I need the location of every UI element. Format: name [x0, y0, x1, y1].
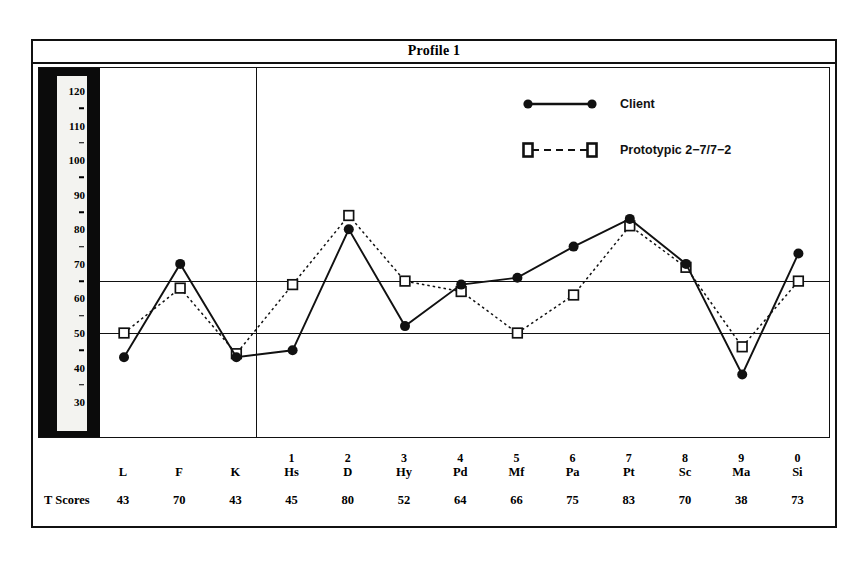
chart-title-band: Profile 1 [31, 39, 837, 64]
scale-abbr-si: Si [792, 465, 802, 479]
scale-column-hy: 3Hy [396, 452, 412, 479]
prototypic-point-Pa [569, 290, 579, 300]
chart-legend: Client Prototypic 2−7/7−2 [520, 93, 820, 185]
y-axis-minor-tick [79, 211, 84, 213]
client-point-L [119, 352, 129, 362]
scale-column-ma: 9Ma [732, 452, 750, 479]
tscore-ma: 38 [735, 493, 748, 508]
client-point-D [344, 224, 354, 234]
scale-abbr-mf: Mf [508, 465, 524, 479]
scale-number-ma: 9 [732, 452, 750, 465]
scale-abbr-k: K [231, 465, 241, 479]
y-axis-minor-tick [79, 246, 84, 248]
y-axis-tick-100: 100 [69, 155, 86, 166]
tscore-pt: 83 [623, 493, 636, 508]
tscores-caption: T Scores [44, 493, 90, 508]
y-axis-minor-tick [79, 350, 84, 352]
scale-number-sc: 8 [679, 452, 692, 465]
y-axis-tick-120: 120 [69, 86, 86, 97]
scale-number-pd: 4 [453, 452, 468, 465]
tscore-pa: 75 [566, 493, 579, 508]
y-axis-tick-70: 70 [74, 258, 85, 269]
reference-line-t65 [100, 281, 829, 282]
series-prototypic [119, 211, 803, 359]
series-client [119, 214, 803, 380]
scale-number-hy: 3 [396, 452, 412, 465]
tscore-k: 43 [229, 493, 242, 508]
scale-number-pa: 6 [566, 452, 580, 465]
y-axis-minor-tick [79, 142, 84, 144]
client-line-sample-icon [520, 94, 620, 114]
y-axis-tick-40: 40 [74, 362, 85, 373]
page-title: Profile 1 [408, 43, 460, 59]
y-axis-minor-tick [79, 315, 84, 317]
scale-column-sc: 8Sc [679, 452, 692, 479]
prototypic-point-K [232, 349, 242, 359]
tscore-si: 73 [791, 493, 804, 508]
prototypic-point-F [175, 283, 185, 293]
scale-abbr-hs: Hs [284, 465, 299, 479]
scale-column-pa: 6Pa [566, 452, 580, 479]
legend-row-prototypic: Prototypic 2−7/7−2 [520, 139, 820, 161]
scale-abbr-pd: Pd [453, 465, 468, 479]
y-axis-minor-tick [79, 108, 84, 110]
tscore-hs: 45 [285, 493, 298, 508]
scale-column-hs: 1Hs [284, 452, 299, 479]
tscore-sc: 70 [679, 493, 692, 508]
legend-row-client: Client [520, 93, 820, 115]
y-axis-minor-tick [79, 177, 84, 179]
scale-abbr-pt: Pt [623, 465, 635, 479]
y-axis-tick-80: 80 [74, 224, 85, 235]
scale-column-si: 0Si [792, 452, 802, 479]
scale-column-mf: 5Mf [508, 452, 524, 479]
scale-number-hs: 1 [284, 452, 299, 465]
tscore-l: 43 [117, 493, 130, 508]
tscore-d: 80 [342, 493, 355, 508]
prototypic-point-Ma [737, 342, 747, 352]
y-axis-tick-60: 60 [74, 293, 85, 304]
scale-abbr-l: L [119, 465, 127, 479]
scale-number-spacer [175, 452, 183, 465]
prototypic-point-D [344, 211, 354, 221]
scale-abbr-pa: Pa [566, 465, 580, 479]
scale-number-spacer [231, 452, 241, 465]
scale-abbr-hy: Hy [396, 465, 412, 479]
client-point-F [175, 259, 185, 269]
scale-column-pt: 7Pt [623, 452, 635, 479]
mmpi-profile-screenshot: Profile 1 12011010090807060504030 Client [0, 0, 867, 566]
y-axis-scale-strip: 12011010090807060504030 [57, 76, 87, 431]
tscore-pd: 64 [454, 493, 467, 508]
scale-column-k: K [231, 452, 241, 479]
tscore-mf: 66 [510, 493, 523, 508]
y-axis-minor-tick [79, 384, 84, 386]
client-point-Hy [400, 321, 410, 331]
client-point-Sc [681, 259, 691, 269]
y-axis-panel: 12011010090807060504030 [39, 68, 100, 437]
series-line [124, 219, 798, 375]
client-point-Hs [288, 345, 298, 355]
y-axis-tick-110: 110 [69, 120, 85, 131]
scale-abbr-sc: Sc [679, 465, 692, 479]
scale-label-table: T Scores L F K1Hs2D3Hy4Pd5Mf6Pa7Pt8Sc9Ma… [38, 438, 830, 527]
scale-column-l: L [119, 452, 127, 479]
client-point-Si [793, 249, 803, 259]
scale-abbr-f: F [175, 465, 183, 479]
y-axis-tick-30: 30 [74, 397, 85, 408]
prototypic-line-sample-icon [520, 140, 620, 160]
scale-number-si: 0 [792, 452, 802, 465]
client-point-Pt [625, 214, 635, 224]
scale-abbr-d: D [343, 465, 352, 479]
scale-number-mf: 5 [508, 452, 524, 465]
tscore-hy: 52 [398, 493, 411, 508]
legend-label-client: Client [620, 97, 655, 111]
tscore-f: 70 [173, 493, 186, 508]
prototypic-point-Pd [456, 287, 466, 297]
scale-abbr-ma: Ma [732, 465, 750, 479]
scale-number-pt: 7 [623, 452, 635, 465]
validity-clinical-divider [256, 68, 258, 437]
client-point-K [231, 352, 241, 362]
y-axis-minor-tick [79, 280, 84, 282]
scale-number-spacer [119, 452, 127, 465]
prototypic-point-Pt [625, 221, 635, 231]
y-axis-tick-50: 50 [74, 328, 85, 339]
